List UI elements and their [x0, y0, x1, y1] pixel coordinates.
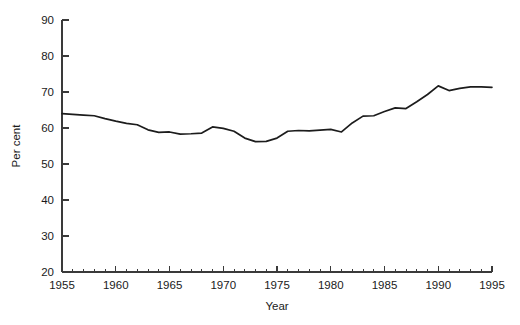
- y-axis-tick-label: 40: [41, 194, 54, 206]
- x-axis-tick-label: 1990: [425, 279, 451, 291]
- y-axis-tick-labels: 2030405060708090: [41, 14, 54, 278]
- y-axis-tick-label: 30: [41, 230, 54, 242]
- y-axis-tick-label: 90: [41, 14, 54, 26]
- x-axis-tick-label: 1975: [264, 279, 290, 291]
- y-axis-tick-label: 60: [41, 122, 54, 134]
- x-axis-tick-label: 1955: [49, 279, 75, 291]
- x-axis-tick-label: 1985: [372, 279, 398, 291]
- chart-container: 195519601965197019751980198519901995 203…: [0, 0, 520, 325]
- x-axis-tick-label: 1960: [103, 279, 129, 291]
- x-axis-tick-labels: 195519601965197019751980198519901995: [49, 279, 505, 291]
- y-axis-tick-label: 50: [41, 158, 54, 170]
- x-axis-tick-label: 1965: [157, 279, 183, 291]
- y-axis-major-ticks: [62, 20, 69, 272]
- x-axis-title: Year: [265, 300, 288, 312]
- y-axis-tick-label: 70: [41, 86, 54, 98]
- x-axis-tick-label: 1980: [318, 279, 344, 291]
- y-axis-tick-label: 20: [41, 266, 54, 278]
- x-axis-tick-label: 1970: [210, 279, 236, 291]
- y-axis-title: Per cent: [10, 124, 22, 168]
- line-chart: 195519601965197019751980198519901995 203…: [0, 0, 520, 325]
- x-axis-tick-label: 1995: [479, 279, 505, 291]
- data-series-line: [62, 86, 492, 142]
- y-axis-tick-label: 80: [41, 50, 54, 62]
